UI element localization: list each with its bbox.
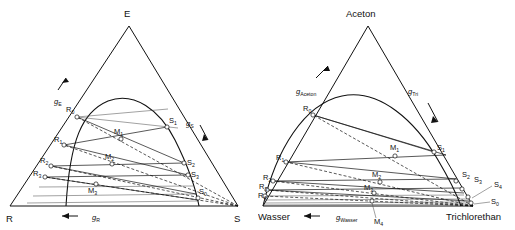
right-point-M2	[378, 180, 382, 184]
right-label-S2: S2	[462, 170, 470, 180]
right-label-R4: R4	[258, 191, 266, 201]
svg-text:gR: gR	[92, 213, 100, 223]
right-label-S4: S4	[494, 180, 502, 190]
left-point-R3	[43, 175, 47, 179]
left-label-M1: M1	[114, 127, 123, 137]
left-tie-line-4	[39, 186, 193, 187]
left-axis-label-gR: gR	[92, 213, 100, 223]
right-point-S0	[469, 201, 473, 205]
right-axis-label-gTri: gTri	[408, 87, 418, 97]
right-op-line-1	[313, 115, 446, 155]
left-point-M2	[110, 162, 114, 166]
left-vertex-S: S	[234, 213, 240, 224]
right-label-M3: M3	[364, 183, 373, 193]
left-point-S2	[182, 161, 186, 165]
svg-text:gAceton: gAceton	[296, 87, 316, 97]
left-arrow-gS	[200, 125, 208, 141]
right-point-M4	[370, 199, 374, 203]
right-axis-label-gWasser: gWasser	[336, 213, 358, 223]
svg-text:gS: gS	[186, 119, 194, 129]
right-leader-S4	[472, 186, 492, 198]
left-vertex-E: E	[124, 8, 130, 19]
left-point-R0	[75, 115, 79, 119]
right-point-R1	[284, 160, 288, 164]
left-label-R2: R2	[40, 156, 48, 166]
left-point-R2	[49, 164, 53, 168]
left-ray-s-to-r2	[51, 166, 238, 206]
gE-sub: E	[58, 101, 62, 107]
svg-text:gE: gE	[54, 97, 62, 107]
right-tie-line-6	[263, 202, 469, 203]
figure-canvas: E R S gE gS gR R0 R1 R2 R3 M1 M2 M3 S1 S…	[0, 0, 515, 230]
left-arrow-gE	[58, 78, 69, 90]
left-label-M3: M3	[88, 186, 97, 196]
right-label-S1: S1	[437, 143, 445, 153]
right-point-S2	[454, 179, 458, 183]
left-ternary-diagram: E R S gE gS gR R0 R1 R2 R3 M1 M2 M3 S1 S…	[0, 0, 258, 230]
left-label-R1: R1	[54, 135, 62, 145]
svg-text:gTri: gTri	[408, 87, 418, 97]
left-label-S3: S3	[191, 170, 199, 180]
left-point-R1	[62, 143, 66, 147]
right-label-M1: M1	[390, 143, 399, 153]
left-label-R3: R3	[33, 169, 41, 179]
left-axis-label-gE: gE	[54, 97, 62, 107]
left-point-S0	[196, 196, 200, 200]
right-point-S3	[460, 187, 464, 191]
left-ray-s-to-r0	[77, 117, 238, 206]
left-label-R0: R0	[66, 105, 74, 115]
right-arrow-gAceton	[316, 66, 330, 78]
left-point-M1	[119, 137, 123, 141]
left-op-line-2	[64, 145, 188, 175]
right-point-M1	[393, 154, 397, 158]
gS-sub: S	[190, 123, 194, 129]
right-leader-M4	[372, 203, 376, 218]
left-op-line-3	[51, 166, 196, 194]
left-tie-line-0b	[77, 117, 178, 128]
left-axis-label-gS: gS	[186, 119, 194, 129]
right-vertex-Trichlorethan: Trichlorethan	[446, 211, 501, 222]
right-axis-label-gAceton: gAceton	[296, 87, 316, 97]
right-label-S3: S3	[474, 175, 482, 185]
right-op-line-2	[286, 162, 456, 179]
left-label-S1: S1	[169, 116, 177, 126]
right-vertex-Aceton: Aceton	[346, 8, 376, 19]
right-point-S4	[466, 195, 470, 199]
right-arrow-gWasser	[304, 213, 320, 219]
left-op-line-4	[45, 177, 198, 200]
left-point-S1	[165, 125, 169, 129]
right-point-S1	[432, 150, 436, 154]
right-label-S0: S0	[491, 197, 499, 207]
left-label-S2: S2	[187, 158, 195, 168]
right-point-R0	[311, 113, 315, 117]
right-ternary-diagram: Aceton Wasser Trichlorethan gAceton gTri…	[258, 0, 515, 230]
svg-text:gWasser: gWasser	[336, 213, 358, 223]
left-ray-s-to-r1	[64, 145, 238, 206]
right-tie-line-1	[286, 155, 446, 162]
right-label-M4: M4	[374, 217, 383, 227]
right-vertex-Wasser: Wasser	[258, 211, 290, 222]
gR-sub: R	[96, 217, 100, 223]
left-arrow-gR	[62, 213, 78, 219]
left-point-S3	[186, 173, 190, 177]
right-leader-S0	[474, 202, 490, 204]
left-tie-line-3	[45, 175, 188, 177]
right-tie-line-7	[263, 204, 471, 205]
right-point-R2	[271, 179, 275, 183]
right-label-R1: R1	[276, 153, 284, 163]
right-arrow-gTri	[428, 103, 438, 123]
left-tie-line-6	[27, 201, 198, 203]
left-vertex-R: R	[6, 213, 13, 224]
left-label-M2: M2	[105, 152, 114, 162]
right-label-R0: R0	[303, 104, 311, 114]
left-point-M3	[94, 182, 98, 186]
